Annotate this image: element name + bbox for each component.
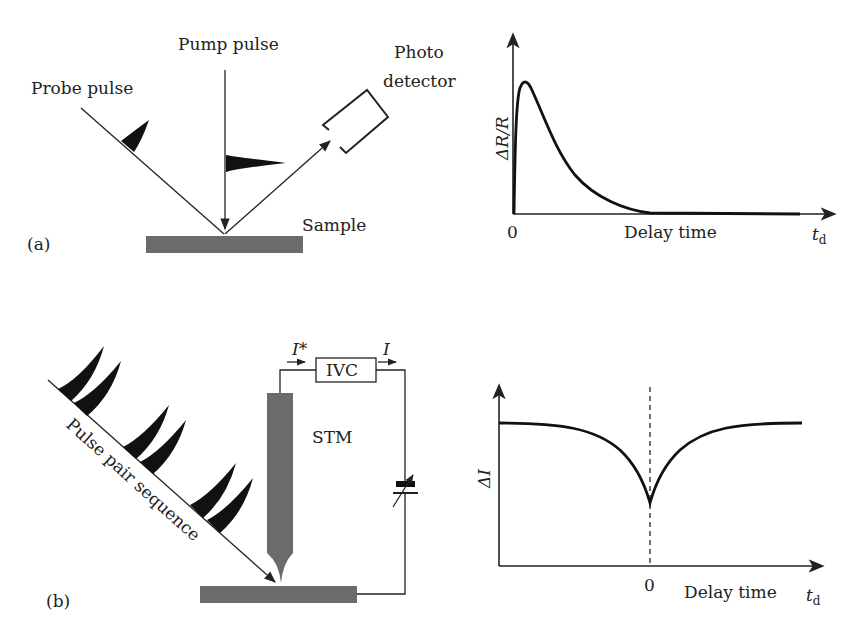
x-tick-zero: 0 [644,575,655,595]
chart-current: 0 Delay time td ΔI [474,386,822,608]
x-axis-label: Delay time [684,582,777,602]
stm-sample-block [200,586,357,603]
chart-reflectivity: 0 Delay time td ΔR/R [492,35,834,247]
panel-a-schematic: Pump pulse Probe pulse Photo detector Sa… [27,34,456,254]
pulse-sequence-label: Pulse pair sequence [62,414,204,545]
sample-label: Sample [302,215,366,235]
panel-b-label: (b) [46,591,70,611]
x-axis-symbol: td [806,585,821,608]
photo-detector-label-line1: Photo [394,42,444,62]
photo-detector-label-line2: detector [383,71,456,91]
panel-b-schematic: Pulse pair sequence STM IVC I* I (b) [46,339,418,611]
figure-canvas: Pump pulse Probe pulse Photo detector Sa… [0,0,866,633]
y-axis-label: ΔI [474,469,494,489]
circuit-wire-left [280,370,316,393]
x-tick-zero: 0 [507,222,518,242]
probe-beam-line [81,108,224,234]
current-out-label: I [382,339,390,359]
pump-pulse-label: Pump pulse [178,34,279,54]
ivc-label: IVC [326,360,358,380]
current-in-label: I* [291,339,308,359]
photo-detector-icon [323,90,388,153]
stm-label: STM [312,427,352,447]
y-axis-label: ΔR/R [492,116,512,161]
panel-a-label: (a) [27,234,50,254]
x-axis-label: Delay time [624,222,717,242]
stm-tip [267,393,293,583]
reflectivity-curve [514,82,800,214]
sample-block [146,236,303,253]
probe-pulse-label: Probe pulse [31,78,133,98]
x-axis-symbol: td [812,224,827,247]
pump-pulse-shape [226,155,286,172]
